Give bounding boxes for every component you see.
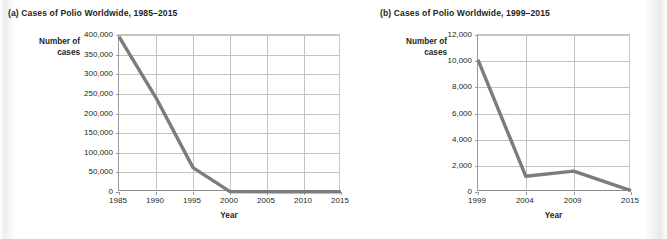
chart-a-x-tick-label: 1995 <box>183 196 201 205</box>
chart-b-x-tick-label: 2009 <box>564 196 582 205</box>
chart-b-data-series <box>478 35 631 192</box>
chart-b-y-axis-label-line1: Number of <box>385 36 447 47</box>
chart-b-x-tick-label: 2004 <box>516 196 534 205</box>
chart-a-y-tick-label: 150,000 <box>84 128 113 137</box>
chart-a-x-tick-label: 2000 <box>220 196 238 205</box>
chart-a-data-series <box>119 35 341 192</box>
chart-b-polyline <box>478 60 631 191</box>
chart-a-y-tick-label: 0 <box>109 187 113 196</box>
chart-b-x-tick-label: 2015 <box>621 196 639 205</box>
chart-a-y-axis-label-line2: cases <box>18 47 80 58</box>
chart-a-x-tick-label: 2015 <box>331 196 349 205</box>
chart-a-y-tick-label: 300,000 <box>84 69 113 78</box>
chart-b-x-axis-label: Year <box>477 211 630 220</box>
chart-a-x-tick-mark <box>341 192 342 195</box>
chart-b-y-tick-label: 6,000 <box>452 108 472 117</box>
chart-a-x-tick-mark <box>156 192 157 195</box>
chart-b-y-tick-label: 4,000 <box>452 134 472 143</box>
chart-b-y-tick-label: 0 <box>468 187 472 196</box>
chart-a-y-tick-label: 200,000 <box>84 108 113 117</box>
chart-a-x-tick-label: 2005 <box>257 196 275 205</box>
chart-a-y-tick-label: 400,000 <box>84 30 113 39</box>
chart-a-y-axis-label-line1: Number of <box>18 36 80 47</box>
chart-a-y-axis-label: Number of cases <box>18 36 80 58</box>
chart-a-x-axis-label: Year <box>118 211 340 220</box>
chart-b-x-tick-label: 1999 <box>468 196 486 205</box>
chart-a-x-tick-label: 1990 <box>146 196 164 205</box>
chart-a-y-tick-label: 50,000 <box>89 167 113 176</box>
chart-b-title: (b) Cases of Polio Worldwide, 1999–2015 <box>380 8 550 18</box>
chart-b-y-tick-label: 12,000 <box>448 30 472 39</box>
page-edge-shadow-left <box>0 0 14 239</box>
chart-a-polyline <box>119 37 341 192</box>
page-edge-shadow-right <box>645 0 667 239</box>
chart-b-y-tick-label: 10,000 <box>448 56 472 65</box>
chart-b-y-axis-label: Number of cases <box>385 36 447 58</box>
chart-a-y-tick-label: 250,000 <box>84 88 113 97</box>
chart-b-x-tick-mark <box>478 192 479 195</box>
chart-b-y-tick-label: 8,000 <box>452 82 472 91</box>
chart-a-x-tick-label: 1985 <box>109 196 127 205</box>
chart-b-y-axis-label-line2: cases <box>385 47 447 58</box>
chart-a-plot-area <box>118 34 340 191</box>
chart-b-y-tick-label: 2,000 <box>452 160 472 169</box>
chart-a-y-tick-label: 350,000 <box>84 49 113 58</box>
chart-a-title: (a) Cases of Polio Worldwide, 1985–2015 <box>8 8 177 18</box>
chart-b-x-tick-mark <box>526 192 527 195</box>
chart-b-plot-area <box>477 34 630 191</box>
chart-a-x-tick-mark <box>119 192 120 195</box>
chart-a-x-tick-mark <box>193 192 194 195</box>
chart-b-x-tick-mark <box>574 192 575 195</box>
chart-a-y-tick-label: 100,000 <box>84 147 113 156</box>
chart-a-x-tick-label: 2010 <box>294 196 312 205</box>
chart-b-x-tick-mark <box>631 192 632 195</box>
